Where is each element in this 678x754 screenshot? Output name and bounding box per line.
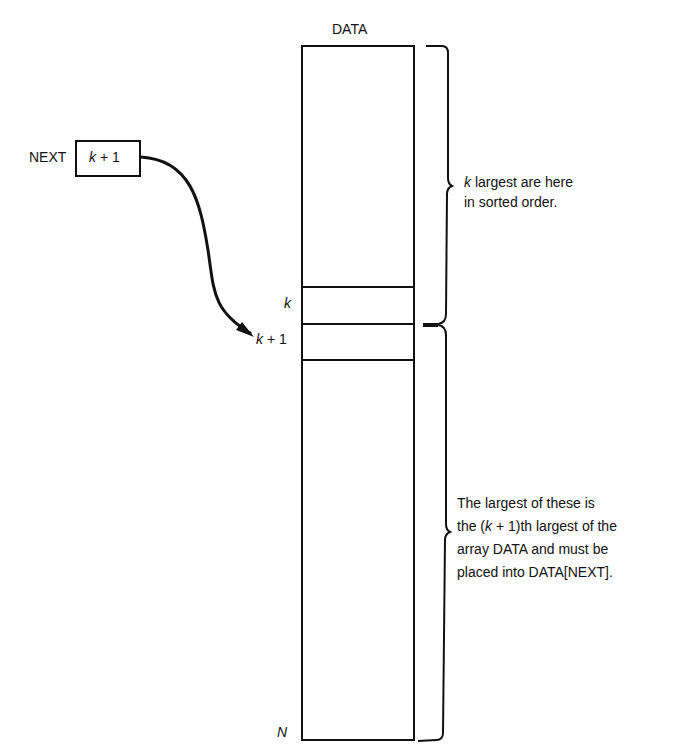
- diagram-canvas: [0, 0, 678, 754]
- upper-note-rest: largest are here: [471, 174, 573, 190]
- lower-note-line2-pre: the (: [457, 518, 485, 534]
- row-label-n: N: [277, 724, 287, 741]
- upper-bracket-note: k largest are here in sorted order.: [464, 172, 573, 212]
- row-k1-var: k: [256, 331, 263, 347]
- lower-brace-icon: [418, 325, 450, 741]
- array-title: DATA: [332, 21, 367, 38]
- row-label-k: k: [284, 295, 291, 312]
- upper-note-var: k: [464, 174, 471, 190]
- pointer-arrow-line: [141, 157, 250, 333]
- next-value-rest: + 1: [96, 149, 120, 165]
- data-array-box: [302, 46, 414, 740]
- upper-brace-icon: [424, 46, 452, 325]
- lower-note-line1: The largest of these is: [457, 492, 617, 515]
- lower-bracket-note: The largest of these is the (k + 1)th la…: [457, 492, 617, 584]
- lower-note-line2: the (k + 1)th largest of the: [457, 515, 617, 538]
- row-k1-rest: + 1: [263, 331, 287, 347]
- lower-note-line2-post: + 1)th largest of the: [492, 518, 617, 534]
- upper-note-line2: in sorted order.: [464, 192, 573, 212]
- upper-note-line1: k largest are here: [464, 172, 573, 192]
- lower-note-line4: placed into DATA[NEXT].: [457, 561, 617, 584]
- row-label-k-plus-1: k + 1: [256, 331, 287, 348]
- next-value-var: k: [89, 149, 96, 165]
- lower-note-line3: array DATA and must be: [457, 538, 617, 561]
- lower-note-line2-var: k: [485, 518, 492, 534]
- next-pointer-value: k + 1: [89, 149, 120, 166]
- next-pointer-label: NEXT: [29, 149, 66, 166]
